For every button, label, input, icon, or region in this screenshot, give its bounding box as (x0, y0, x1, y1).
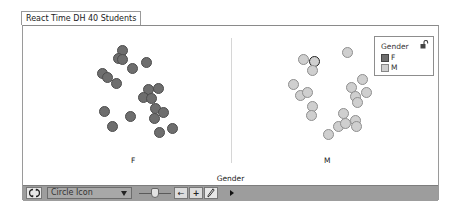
data-point-f[interactable] (146, 93, 157, 104)
data-point-m[interactable] (306, 110, 317, 121)
data-point-f[interactable] (149, 113, 160, 124)
data-point-f[interactable] (125, 111, 136, 122)
data-point-f[interactable] (127, 63, 138, 74)
window-title-tab[interactable]: React Time DH 40 Students (21, 11, 141, 25)
category-divider (231, 38, 232, 163)
data-point-m[interactable] (307, 65, 318, 76)
data-point-m[interactable] (340, 118, 351, 129)
legend-label-f: F (391, 53, 395, 62)
pencil-icon (207, 188, 215, 198)
x-axis-title: Gender (23, 174, 438, 183)
data-point-m[interactable] (338, 108, 349, 119)
slider-thumb[interactable] (151, 188, 159, 198)
data-point-m[interactable] (357, 74, 368, 85)
bottom-toolbar: Circle Icon ← + (23, 185, 438, 201)
add-button[interactable]: + (189, 187, 203, 199)
move-left-button[interactable]: ← (174, 187, 188, 199)
refresh-icon (29, 188, 40, 198)
legend-label-m: M (391, 63, 397, 72)
data-point-m[interactable] (361, 87, 372, 98)
unlock-icon[interactable] (420, 40, 429, 49)
point-style-value: Circle Icon (51, 188, 93, 197)
graph-frame: F M Gender F M Gender (22, 25, 439, 200)
point-size-slider[interactable] (139, 187, 171, 199)
legend-item-f[interactable]: F (381, 53, 395, 62)
data-point-m[interactable] (323, 129, 334, 140)
expand-toolbar-icon[interactable] (230, 190, 234, 196)
data-point-f[interactable] (107, 121, 118, 132)
legend-item-m[interactable]: M (381, 63, 397, 72)
data-point-m[interactable] (352, 97, 363, 108)
data-point-f[interactable] (99, 106, 110, 117)
legend-swatch-m (381, 64, 389, 72)
data-point-m[interactable] (342, 47, 353, 58)
data-point-f[interactable] (117, 54, 128, 65)
data-point-f[interactable] (153, 83, 164, 94)
point-style-select[interactable]: Circle Icon (47, 187, 132, 199)
data-point-f[interactable] (154, 127, 165, 138)
legend-title: Gender (381, 42, 409, 51)
dropdown-arrow-icon (121, 191, 127, 196)
edit-button[interactable] (204, 187, 218, 199)
legend-swatch-f (381, 54, 389, 62)
refresh-button[interactable] (26, 187, 42, 199)
data-point-f[interactable] (141, 57, 152, 68)
data-point-m[interactable] (351, 121, 362, 132)
data-point-m[interactable] (288, 79, 299, 90)
legend[interactable]: Gender F M (374, 36, 434, 76)
data-point-f[interactable] (111, 78, 122, 89)
data-point-f[interactable] (167, 123, 178, 134)
data-point-m[interactable] (302, 87, 313, 98)
data-point-m[interactable] (298, 54, 309, 65)
arrow-left-icon: ← (178, 189, 185, 198)
scatter-plot-area[interactable]: F M Gender F M (23, 26, 438, 176)
category-label-f: F (131, 156, 135, 165)
category-label-m: M (324, 156, 330, 165)
plus-icon: + (193, 189, 200, 198)
